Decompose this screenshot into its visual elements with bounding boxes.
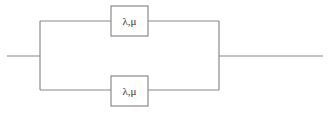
- bottom-block-label: λ,μ: [123, 85, 137, 97]
- parallel-system-diagram: λ,μ λ,μ: [0, 0, 328, 116]
- top-block-label: λ,μ: [123, 15, 137, 27]
